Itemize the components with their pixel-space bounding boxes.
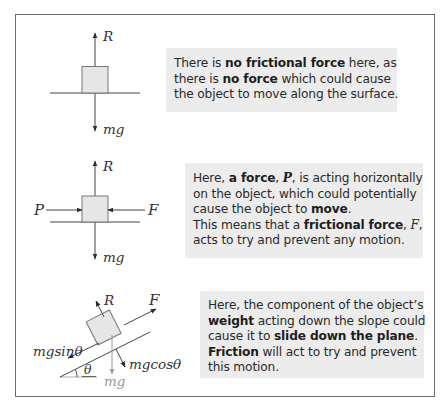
label-mg: mg — [103, 121, 125, 137]
text-line: cause the object to move. — [193, 202, 423, 218]
block — [82, 196, 108, 222]
explanation-horizontal-force: Here, a force, P, is acting horizontally… — [185, 163, 423, 258]
label-F: F — [147, 201, 159, 219]
block — [82, 67, 108, 94]
text-line: cause it to slide down the plane. — [208, 329, 424, 345]
text-line: This means that a frictional force, F, — [193, 218, 423, 234]
text-line: on the object, which could potentially — [193, 187, 423, 203]
label-F: F — [148, 291, 160, 309]
perpendicular-component-arrow — [116, 349, 125, 367]
label-R: R — [102, 158, 113, 174]
label-R: R — [103, 292, 114, 308]
diagram-no-friction: R mg — [50, 28, 140, 137]
label-mgsin: mgsinθ — [33, 343, 83, 359]
label-mg: mg — [103, 249, 125, 265]
label-mgcos: mgcosθ — [129, 356, 181, 372]
diagram-horizontal-force: R mg P F — [33, 158, 159, 265]
text-line: There is no frictional force here, as — [174, 56, 397, 72]
text-line: Friction will act to try and prevent — [208, 345, 424, 361]
label-theta: θ — [84, 362, 92, 377]
angle-arc — [76, 370, 78, 378]
text-line: Here, the component of the object’s — [208, 298, 424, 314]
explanation-no-friction: There is no frictional force here, asthe… — [166, 48, 397, 112]
text-line: the object to move along the surface. — [174, 87, 397, 103]
friction-arrow — [124, 309, 156, 325]
text-line: weight acting down the slope could — [208, 314, 424, 330]
label-R: R — [102, 28, 113, 44]
text-line: acts to try and prevent any motion. — [193, 233, 423, 249]
label-P: P — [33, 201, 45, 219]
text-line: this motion. — [208, 360, 424, 376]
label-mg: mg — [104, 373, 126, 389]
explanation-inclined-plane: Here, the component of the object’sweigh… — [200, 291, 424, 378]
text-line: Here, a force, P, is acting horizontally — [193, 171, 423, 187]
diagram-inclined-plane: R F mgsinθ mgcosθ mg θ — [33, 291, 181, 389]
text-line: there is no force which could cause — [174, 72, 397, 88]
